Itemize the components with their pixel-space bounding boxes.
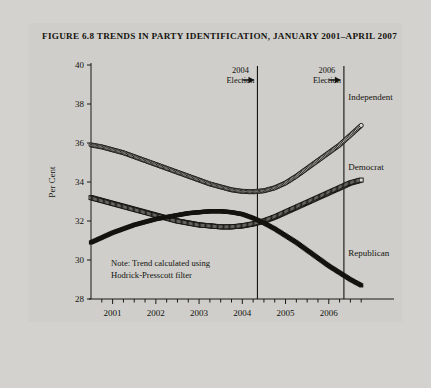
y-tick-label: 32: [75, 216, 84, 226]
y-tick-label: 28: [75, 294, 85, 304]
election-label-year: 2006: [319, 66, 336, 75]
series-label-republican: Republican: [348, 248, 389, 258]
x-tick-label: 2001: [104, 308, 122, 318]
series-label-independent: Independent: [348, 92, 393, 102]
x-tick-label: 2006: [320, 308, 339, 318]
chart-note-line2: Hodrick-Presscott filter: [111, 270, 192, 280]
y-tick-label: 34: [75, 177, 85, 187]
x-tick-label: 2003: [190, 308, 209, 318]
y-tick-label: 38: [75, 99, 85, 109]
series-label-democrat: Democrat: [348, 162, 384, 172]
y-tick-label: 40: [75, 60, 85, 70]
data-point: [359, 123, 363, 127]
y-tick-label: 36: [75, 138, 85, 148]
series-independent: [89, 123, 363, 193]
x-tick-label: 2005: [277, 308, 296, 318]
x-tick-label: 2002: [147, 308, 165, 318]
data-point: [359, 178, 363, 182]
party-identification-line-chart: 28303234363840200120022003200420052006Pe…: [29, 23, 402, 322]
y-tick-label: 30: [75, 255, 85, 265]
data-point: [359, 283, 363, 287]
chart-plot-area: 28303234363840200120022003200420052006Pe…: [29, 23, 402, 322]
chart-text-labels: Note: Trend calculated usingHodrick-Pres…: [111, 92, 393, 322]
chart-note-line1: Note: Trend calculated using: [111, 258, 211, 268]
x-tick-label: 2004: [233, 308, 252, 318]
figure-panel: FIGURE 6.8 TRENDS IN PARTY IDENTIFICATIO…: [29, 23, 402, 322]
election-label-year: 2004: [232, 66, 250, 75]
chart-axes: 28303234363840200120022003200420052006Pe…: [47, 60, 394, 322]
y-axis-title: Per Cent: [47, 166, 57, 198]
series-democrat: [89, 178, 363, 229]
